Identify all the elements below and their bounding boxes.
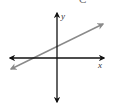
coordinate-graph: C y x [0,0,115,109]
y-axis-label: y [60,11,65,21]
partial-choice-label: C [79,0,86,5]
x-axis-label: x [97,60,102,70]
